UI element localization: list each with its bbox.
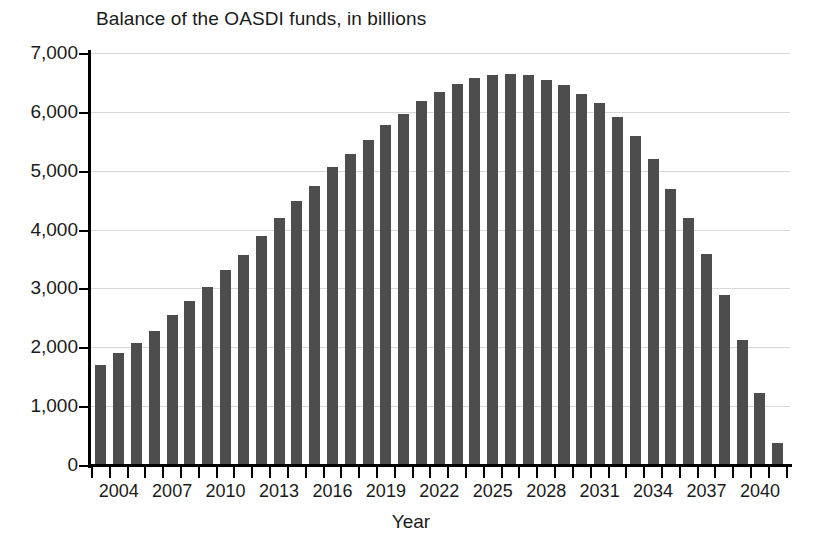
x-axis-tick-label: 2037 <box>677 482 737 500</box>
bar <box>719 295 730 465</box>
x-axis-tick-mark <box>394 467 396 478</box>
bar <box>256 236 267 465</box>
bar <box>238 255 249 465</box>
bar <box>309 186 320 465</box>
x-axis-tick-label: 2016 <box>302 482 362 500</box>
bar <box>95 365 106 465</box>
y-axis-tick-label: 2,000 <box>6 337 78 356</box>
bar <box>487 75 498 465</box>
bar <box>630 136 641 465</box>
bar <box>113 353 124 465</box>
bar <box>648 159 659 465</box>
y-axis-tick-label: 3,000 <box>6 278 78 297</box>
x-axis-tick-label: 2028 <box>516 482 576 500</box>
y-axis-tick-label: 1,000 <box>6 396 78 415</box>
bar <box>274 218 285 465</box>
x-axis-title: Year <box>0 511 822 533</box>
bar <box>505 74 516 465</box>
bar <box>345 154 356 465</box>
x-axis-tick-mark <box>501 467 503 478</box>
bar <box>131 343 142 465</box>
x-axis-tick-mark <box>287 467 289 478</box>
x-axis-tick-mark <box>144 467 146 478</box>
x-axis-tick-mark <box>447 467 449 478</box>
plot-area <box>90 53 790 465</box>
x-axis-tick-mark <box>323 467 325 478</box>
bar <box>202 287 213 465</box>
x-axis-tick-mark <box>358 467 360 478</box>
y-axis-tick-label: 4,000 <box>6 220 78 239</box>
y-axis-tick-label: 0 <box>6 455 78 474</box>
bar <box>665 189 676 465</box>
x-axis-tick-label: 2040 <box>730 482 790 500</box>
x-axis-tick-mark <box>536 467 538 478</box>
x-axis-tick-label: 2034 <box>623 482 683 500</box>
x-axis-tick-mark <box>109 467 111 478</box>
x-axis-tick-mark <box>643 467 645 478</box>
x-axis-tick-mark <box>697 467 699 478</box>
x-axis-tick-mark <box>590 467 592 478</box>
x-axis-tick-mark <box>518 467 520 478</box>
y-axis-tick-labels: 7,0006,0005,0004,0003,0002,0001,0000 <box>0 0 78 547</box>
bar <box>184 301 195 465</box>
y-axis-tick-label: 7,000 <box>6 43 78 62</box>
x-axis-tick-label: 2031 <box>570 482 630 500</box>
x-axis-tick-mark <box>91 467 93 478</box>
bar <box>737 340 748 465</box>
bar <box>167 315 178 465</box>
x-axis-tick-mark <box>608 467 610 478</box>
bar <box>469 78 480 465</box>
bar <box>772 443 783 465</box>
x-axis-tick-mark <box>162 467 164 478</box>
x-axis-tick-mark <box>768 467 770 478</box>
x-axis-tick-mark <box>786 467 788 478</box>
x-axis-tick-label: 2019 <box>356 482 416 500</box>
x-axis-tick-mark <box>572 467 574 478</box>
bar <box>380 125 391 465</box>
bar <box>683 218 694 465</box>
bar <box>220 270 231 465</box>
bar <box>327 167 338 465</box>
x-axis-tick-mark <box>180 467 182 478</box>
x-axis-tick-mark <box>554 467 556 478</box>
x-axis-tick-mark <box>429 467 431 478</box>
bar <box>612 117 623 465</box>
x-axis-tick-mark <box>465 467 467 478</box>
bar <box>558 85 569 465</box>
x-axis-tick-mark <box>251 467 253 478</box>
x-axis-tick-label: 2007 <box>142 482 202 500</box>
x-axis-tick-label: 2022 <box>409 482 469 500</box>
chart-title: Balance of the OASDI funds, in billions <box>96 8 426 30</box>
x-axis-tick-mark <box>714 467 716 478</box>
bar <box>363 140 374 465</box>
bar <box>523 75 534 465</box>
gridline <box>90 53 790 54</box>
y-axis-tick-label: 5,000 <box>6 161 78 180</box>
bar <box>434 92 445 465</box>
x-axis-tick-mark <box>661 467 663 478</box>
bar <box>594 103 605 465</box>
x-axis-line <box>88 464 792 467</box>
x-axis-tick-mark <box>127 467 129 478</box>
bar <box>701 254 712 465</box>
x-axis-tick-label: 2013 <box>249 482 309 500</box>
x-axis-tick-mark <box>483 467 485 478</box>
bar <box>754 393 765 465</box>
bar <box>149 331 160 465</box>
x-axis-tick-mark <box>305 467 307 478</box>
x-axis-tick-mark <box>216 467 218 478</box>
x-axis-tick-mark <box>340 467 342 478</box>
bar <box>541 80 552 466</box>
x-axis-tick-mark <box>732 467 734 478</box>
bar <box>398 114 409 465</box>
x-axis-tick-label: 2004 <box>89 482 149 500</box>
x-axis-tick-mark <box>376 467 378 478</box>
x-axis-tick-mark <box>233 467 235 478</box>
x-axis-tick-mark <box>269 467 271 478</box>
x-axis-tick-mark <box>412 467 414 478</box>
y-axis-tick-label: 6,000 <box>6 102 78 121</box>
bar <box>291 201 302 465</box>
x-axis-tick-label: 2025 <box>463 482 523 500</box>
x-axis-tick-label: 2010 <box>196 482 256 500</box>
x-axis-tick-mark <box>750 467 752 478</box>
